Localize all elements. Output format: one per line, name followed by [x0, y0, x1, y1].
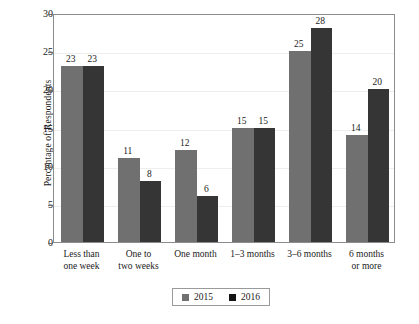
legend-label: 2015 — [194, 292, 213, 302]
y-axis-tick: 25 — [0, 47, 53, 57]
y-axis-tick: 15 — [0, 124, 53, 134]
bar-value-label: 12 — [170, 138, 200, 148]
bar-value-label: 8 — [134, 169, 164, 179]
legend-swatch-icon — [229, 294, 236, 301]
bar — [61, 66, 83, 242]
bar-value-label: 15 — [248, 116, 278, 126]
category-label: 1–3 months — [221, 249, 285, 261]
bar — [368, 89, 390, 242]
bar-value-label: 11 — [113, 146, 143, 156]
category-label: Less than one week — [50, 249, 114, 272]
category-label: 6 months or more — [335, 249, 399, 272]
bar — [311, 28, 333, 242]
y-axis-tick: 20 — [0, 85, 53, 95]
gridline — [54, 206, 394, 207]
gridline — [54, 168, 394, 169]
category-label: One to two weeks — [107, 249, 171, 272]
bar-value-label: 20 — [362, 77, 392, 87]
bar-value-label: 14 — [341, 123, 371, 133]
bar — [140, 181, 162, 242]
bar — [289, 51, 311, 242]
bar-value-label: 28 — [305, 16, 335, 26]
legend-label: 2016 — [241, 292, 260, 302]
category-label: 3–6 months — [278, 249, 342, 261]
y-axis-tick: 30 — [0, 9, 53, 19]
y-axis-tick: 5 — [0, 200, 53, 210]
bar-value-label: 25 — [284, 39, 314, 49]
bar — [175, 150, 197, 242]
legend-swatch-icon — [182, 294, 189, 301]
category-label: One month — [164, 249, 228, 261]
y-axis-tick: 10 — [0, 162, 53, 172]
bar — [83, 66, 105, 242]
bar — [197, 196, 219, 242]
y-axis-tick: 0 — [0, 238, 53, 248]
bar-value-label: 6 — [191, 184, 221, 194]
bar-value-label: 23 — [77, 54, 107, 64]
bar — [254, 128, 276, 243]
legend-item[interactable]: 2015 — [182, 292, 213, 302]
chart-legend: 20152016 — [172, 288, 270, 306]
gridline — [54, 91, 394, 92]
bar — [232, 128, 254, 243]
legend-item[interactable]: 2016 — [229, 292, 260, 302]
bar-chart: Percentage of Respondents 051015202530 2… — [0, 0, 419, 324]
y-axis-tick-mark — [48, 243, 53, 244]
bar — [346, 135, 368, 242]
